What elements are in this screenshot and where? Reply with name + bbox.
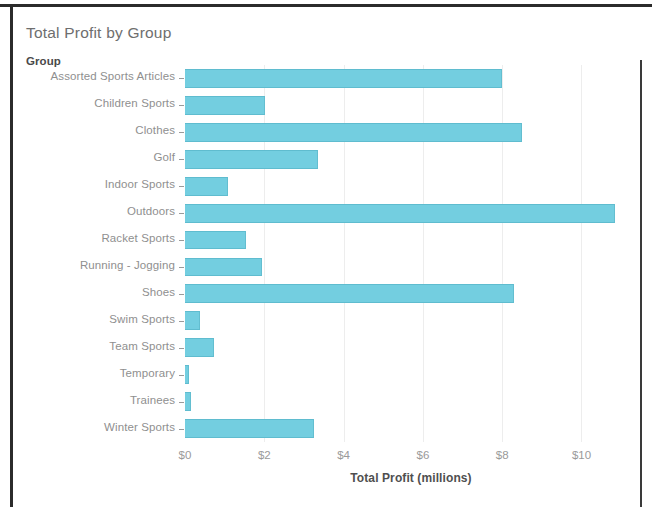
bar[interactable]: [185, 392, 191, 411]
category-tick: [179, 429, 184, 430]
bar-row[interactable]: [185, 123, 637, 142]
value-tick-label: $4: [337, 449, 350, 461]
category-tick-label: Temporary: [120, 367, 175, 379]
bar[interactable]: [185, 69, 502, 88]
category-tick: [179, 348, 184, 349]
category-tick: [179, 240, 184, 241]
category-tick-label: Assorted Sports Articles: [51, 70, 175, 82]
bar-row[interactable]: [185, 231, 637, 250]
bar-row[interactable]: [185, 392, 637, 411]
bar[interactable]: [185, 258, 262, 277]
category-tick: [179, 132, 184, 133]
bar[interactable]: [185, 419, 314, 438]
category-tick: [179, 402, 184, 403]
bar-row[interactable]: [185, 365, 637, 384]
category-tick-label: Outdoors: [127, 205, 175, 217]
category-tick: [179, 375, 184, 376]
category-tick-label: Winter Sports: [104, 421, 175, 433]
bar[interactable]: [185, 284, 514, 303]
bar-row[interactable]: [185, 419, 637, 438]
bar-row[interactable]: [185, 96, 637, 115]
category-tick: [179, 78, 184, 79]
bar-series: [185, 65, 637, 442]
bar[interactable]: [185, 231, 246, 250]
category-tick-label: Trainees: [130, 394, 175, 406]
bar[interactable]: [185, 96, 265, 115]
bar-row[interactable]: [185, 177, 637, 196]
category-tick-label: Running - Jogging: [80, 259, 175, 271]
chart-container: Total Profit by Group Group Assorted Spo…: [13, 7, 640, 507]
value-tick-label: $10: [572, 449, 591, 461]
category-tick: [179, 186, 184, 187]
bar-row[interactable]: [185, 69, 637, 88]
bar[interactable]: [185, 311, 200, 330]
category-tick-label: Children Sports: [94, 97, 175, 109]
category-tick: [179, 294, 184, 295]
category-tick: [179, 105, 184, 106]
category-tick-label: Shoes: [142, 286, 175, 298]
category-tick-label: Swim Sports: [109, 313, 175, 325]
plot-area: Assorted Sports ArticlesChildren SportsC…: [185, 65, 637, 442]
scanned-page-frame: Total Profit by Group Group Assorted Spo…: [0, 0, 652, 507]
category-tick-label: Racket Sports: [101, 232, 175, 244]
chart-title: Total Profit by Group: [26, 24, 172, 42]
bar-row[interactable]: [185, 150, 637, 169]
category-tick-label: Clothes: [135, 124, 175, 136]
bar-row[interactable]: [185, 258, 637, 277]
category-tick: [179, 267, 184, 268]
bar[interactable]: [185, 204, 615, 223]
value-tick-label: $2: [258, 449, 271, 461]
bar[interactable]: [185, 177, 228, 196]
value-tick-label: $0: [179, 449, 192, 461]
bar-row[interactable]: [185, 311, 637, 330]
bar[interactable]: [185, 123, 522, 142]
category-tick: [179, 159, 184, 160]
value-axis-title: Total Profit (millions): [185, 471, 637, 485]
category-tick-label: Indoor Sports: [105, 178, 175, 190]
bar[interactable]: [185, 338, 214, 357]
category-tick: [179, 213, 184, 214]
bar-row[interactable]: [185, 204, 637, 223]
category-tick-label: Golf: [154, 151, 176, 163]
bar-row[interactable]: [185, 284, 637, 303]
page-border-right: [640, 60, 642, 507]
bar[interactable]: [185, 150, 318, 169]
value-tick-label: $8: [496, 449, 509, 461]
category-tick: [179, 321, 184, 322]
category-tick-label: Team Sports: [109, 340, 175, 352]
bar[interactable]: [185, 365, 189, 384]
value-tick-label: $6: [416, 449, 429, 461]
bar-row[interactable]: [185, 338, 637, 357]
category-axis-title: Group: [26, 55, 61, 67]
